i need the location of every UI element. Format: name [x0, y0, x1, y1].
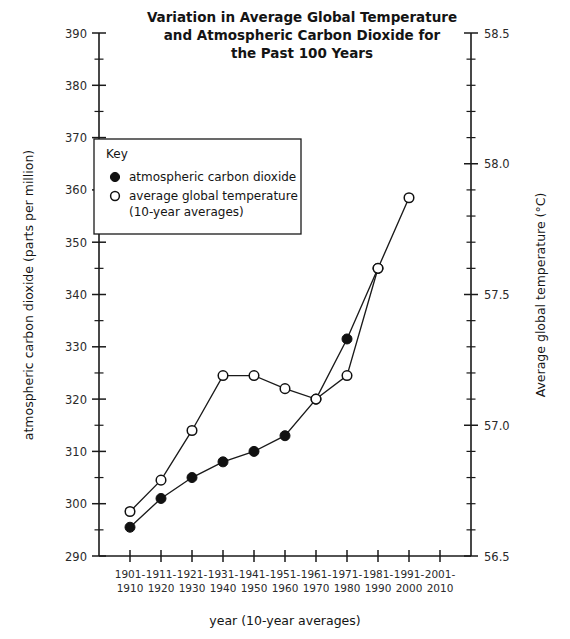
legend-label-co2: atmospheric carbon dioxide [129, 170, 296, 184]
data-point-co2 [280, 431, 290, 441]
chart-figure: Variation in Average Global Temperature … [0, 0, 570, 639]
x-axis-tick-label: 1980 [334, 582, 361, 594]
y-axis-left-tick-label: 360 [65, 183, 87, 197]
chart-background [0, 0, 570, 639]
data-point-co2 [249, 446, 259, 456]
y-axis-right-tick-label: 57.0 [484, 419, 510, 433]
chart-title-line-3: the Past 100 Years [231, 45, 373, 61]
y-axis-left-tick-label: 290 [65, 550, 87, 564]
x-axis-tick-label: 1911- [146, 568, 177, 580]
y-axis-right-tick-label: 57.5 [484, 288, 510, 302]
chart-title-line-1: Variation in Average Global Temperature [147, 9, 457, 25]
data-point-co2 [218, 457, 228, 467]
data-point-temperature [125, 507, 135, 517]
climate-line-chart: Variation in Average Global Temperature … [0, 0, 570, 639]
y-axis-right-tick-label: 58.5 [484, 27, 510, 41]
data-point-temperature [156, 475, 166, 485]
data-point-temperature [187, 426, 197, 436]
y-axis-left-tick-label: 330 [65, 340, 87, 354]
x-axis-tick-label: 1951- [270, 568, 301, 580]
y-axis-left-tick-label: 310 [65, 445, 87, 459]
data-point-temperature [404, 193, 414, 203]
data-point-temperature [218, 371, 228, 381]
y-axis-right-tick-label: 58.0 [484, 157, 510, 171]
legend-key: Key atmospheric carbon dioxide average g… [94, 139, 301, 234]
x-axis-tick-label: 1941- [239, 568, 270, 580]
y-axis-left-tick-label: 380 [65, 79, 87, 93]
x-axis-tick-label: 1961- [301, 568, 332, 580]
data-point-temperature [311, 394, 321, 404]
x-axis-tick-label: 2001- [425, 568, 456, 580]
x-axis-tick-label: 2010 [427, 582, 454, 594]
data-point-co2 [125, 522, 135, 532]
x-axis-tick-label: 2000 [396, 582, 423, 594]
x-axis-tick-label: 1950 [241, 582, 268, 594]
legend-label-temperature-sub: (10-year averages) [129, 205, 244, 219]
x-axis-tick-label: 1921- [177, 568, 208, 580]
x-axis-tick-label: 1971- [332, 568, 363, 580]
x-axis-tick-label: 1990 [365, 582, 392, 594]
data-point-co2 [342, 334, 352, 344]
x-axis-tick-label: 1901- [115, 568, 146, 580]
x-axis-tick-label: 1981- [363, 568, 394, 580]
y-axis-left-tick-label: 320 [65, 393, 87, 407]
chart-title-line-2: and Atmospheric Carbon Dioxide for [164, 27, 441, 43]
legend-title: Key [106, 147, 128, 161]
legend-label-temperature: average global temperature [129, 189, 298, 203]
x-axis-tick-label: 1920 [148, 582, 175, 594]
y-axis-right-title: Average global temperature (°C) [533, 193, 548, 398]
data-point-temperature [280, 384, 290, 394]
x-axis-title: year (10-year averages) [209, 613, 360, 628]
y-axis-right-tick-label: 56.5 [484, 550, 510, 564]
x-axis-tick-label: 1931- [208, 568, 239, 580]
y-axis-left-tick-label: 300 [65, 497, 87, 511]
data-point-co2 [156, 493, 166, 503]
legend-marker-open-circle-icon [111, 192, 120, 201]
data-point-co2 [187, 473, 197, 483]
x-axis-tick-label: 1991- [394, 568, 425, 580]
x-axis-tick-label: 1970 [303, 582, 330, 594]
data-point-temperature [342, 371, 352, 381]
y-axis-left-tick-label: 390 [65, 27, 87, 41]
x-axis-tick-label: 1930 [179, 582, 206, 594]
x-axis-tick-label: 1960 [272, 582, 299, 594]
x-axis-tick-label: 1940 [210, 582, 237, 594]
y-axis-left-tick-label: 350 [65, 236, 87, 250]
data-point-temperature [373, 264, 383, 274]
x-axis-tick-label: 1910 [117, 582, 144, 594]
y-axis-left-title: atmospheric carbon dioxide (parts per mi… [21, 150, 36, 440]
y-axis-left-tick-label: 370 [65, 131, 87, 145]
legend-marker-filled-circle-icon [110, 172, 119, 181]
y-axis-left-tick-label: 340 [65, 288, 87, 302]
data-point-temperature [249, 371, 259, 381]
